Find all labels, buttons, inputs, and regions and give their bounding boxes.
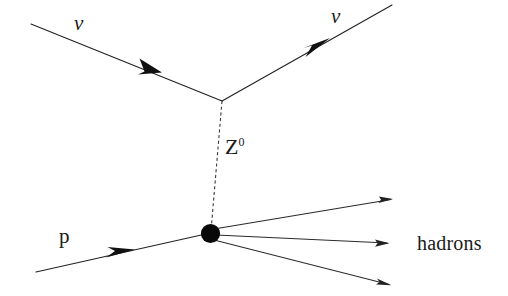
proton-label: p [59, 226, 70, 247]
hadrons-label: hadrons [417, 233, 482, 253]
neutrino-incoming-arrow-icon [138, 59, 162, 75]
hadron-jet-lower-line [214, 240, 389, 285]
z-boson-propagator-line [212, 101, 223, 225]
neutrino-incoming-label: ν [74, 13, 83, 34]
neutrino-incoming-line [31, 24, 222, 101]
hadronic-vertex-blob [201, 224, 220, 243]
hadron-jet-upper-line [214, 200, 391, 230]
neutrino-outgoing-arrow-icon [304, 38, 331, 57]
neutrino-outgoing-label: ν [331, 6, 340, 27]
z-boson-label: Z0 [225, 136, 244, 158]
neutrino-outgoing-line [222, 5, 392, 101]
z-boson-charge-superscript: 0 [238, 135, 244, 149]
hadron-jet-middle-line [216, 235, 387, 243]
feynman-diagram-canvas: ν ν p Z0 hadrons [0, 0, 508, 296]
z-boson-symbol: Z [225, 134, 238, 159]
hadron-jet-middle-arrow-icon [375, 240, 390, 247]
proton-incoming-arrow-icon [106, 247, 135, 258]
